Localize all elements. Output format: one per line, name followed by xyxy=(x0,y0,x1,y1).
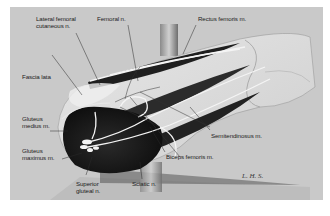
label-biceps-femoris-muscle: Biceps femoris m. xyxy=(166,153,213,160)
anatomy-drawing xyxy=(10,7,323,200)
artist-signature: L. H. S. xyxy=(242,172,263,180)
illustration-plate: Lateral femoral cutaneous n. Femoral n. … xyxy=(10,7,323,200)
label-gluteus-maximus-muscle: Gluteus maximus m. xyxy=(22,147,54,161)
label-sciatic-nerve: Sciatic n. xyxy=(132,180,156,187)
label-gluteus-medius-muscle: Gluteus medius m. xyxy=(22,115,50,129)
label-fascia-lata: Fascia lata xyxy=(22,73,51,80)
label-semitendinosus-muscle: Semitendinosus m. xyxy=(211,132,262,139)
label-superior-gluteal-nerve: Superior gluteal n. xyxy=(76,180,100,194)
label-lateral-femoral-cutaneous-nerve: Lateral femoral cutaneous n. xyxy=(36,15,76,29)
label-rectus-femoris-muscle: Rectus femoris m. xyxy=(198,15,246,22)
post-shape xyxy=(160,24,178,56)
label-femoral-nerve: Femoral n. xyxy=(97,15,126,22)
